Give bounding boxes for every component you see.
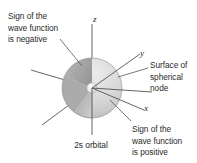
label-sign-positive: Sign of the wave function is positive [132,124,196,159]
axis-label-y: y [140,48,144,58]
orbital-diagram-figure: Sign of the wave function is negative Su… [0,0,197,163]
axis-label-x: x [144,103,148,113]
axis-label-z: z [93,14,97,24]
label-sign-negative: Sign of the wave function is negative [8,11,70,46]
label-spherical-node: Surface of spherical node [150,60,196,95]
node-highlight [89,85,92,88]
figure-caption: 2s orbital [60,140,122,152]
leader-line-node [118,68,148,77]
